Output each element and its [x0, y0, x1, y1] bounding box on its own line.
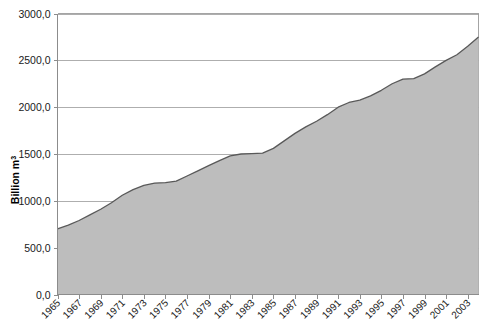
y-axis-tick-label: 1500,0	[18, 148, 50, 160]
y-axis-tick-label: 2000,0	[18, 101, 50, 113]
y-axis-title: Billion m3	[9, 156, 21, 204]
y-axis-tick-label: 500,0	[24, 242, 50, 254]
y-axis-tick-label: 0,0	[36, 289, 51, 301]
y-axis-tick-label: 2500,0	[18, 54, 50, 66]
chart-container: 3000,02500,02000,01500,01000,0500,00,0 1…	[0, 0, 489, 335]
y-axis-title-text: Billion m3	[9, 156, 21, 204]
area-chart: 3000,02500,02000,01500,01000,0500,00,0 1…	[0, 0, 489, 335]
y-axis-tick-label: 1000,0	[18, 195, 50, 207]
y-axis-tick-label: 3000,0	[18, 8, 50, 20]
